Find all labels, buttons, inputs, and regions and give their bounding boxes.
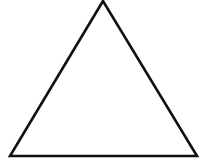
diagram-canvas	[0, 0, 201, 166]
triangle-shape	[10, 1, 197, 156]
triangle-diagram	[0, 0, 201, 166]
